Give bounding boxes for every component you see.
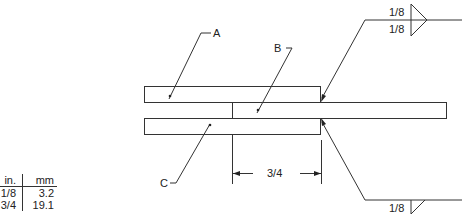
dim-arrow-right-icon bbox=[314, 171, 321, 176]
cell-in: 1/8 bbox=[0, 187, 23, 200]
bottom-weld-size: 1/8 bbox=[389, 202, 404, 214]
bottom-weld-leader bbox=[322, 122, 462, 200]
weld-diagram: A B C 3/4 1/8 1/8 1/8 bbox=[0, 0, 462, 214]
table-header-row: in. mm bbox=[0, 174, 57, 187]
cell-mm: 3.2 bbox=[23, 187, 58, 200]
header-in: in. bbox=[0, 174, 23, 187]
leader-b bbox=[257, 48, 292, 113]
leader-a bbox=[169, 33, 211, 99]
cell-in: 3/4 bbox=[0, 199, 23, 211]
conversion-table: in. mm 1/8 3.2 3/4 19.1 bbox=[0, 174, 57, 211]
top-weld-arrow-icon bbox=[321, 94, 326, 102]
label-c: C bbox=[160, 177, 168, 189]
leader-c bbox=[170, 124, 210, 183]
bottom-weld-fillet-diagonal bbox=[411, 200, 425, 214]
label-b: B bbox=[274, 42, 281, 54]
dot-a bbox=[169, 95, 172, 98]
dot-c bbox=[209, 124, 212, 127]
table-row: 3/4 19.1 bbox=[0, 199, 57, 211]
bottom-weld-arrow-icon bbox=[321, 118, 326, 126]
dot-b bbox=[257, 109, 260, 112]
top-weld-size-lower: 1/8 bbox=[389, 23, 404, 35]
cell-mm: 19.1 bbox=[23, 199, 58, 211]
header-mm: mm bbox=[23, 174, 58, 187]
top-weld-size-upper: 1/8 bbox=[389, 6, 404, 18]
plate-b bbox=[233, 103, 447, 119]
overlap-dimension: 3/4 bbox=[267, 167, 282, 179]
label-a: A bbox=[213, 27, 221, 39]
dim-arrow-left-icon bbox=[233, 171, 240, 176]
plate-c bbox=[145, 119, 321, 135]
table-row: 1/8 3.2 bbox=[0, 187, 57, 200]
